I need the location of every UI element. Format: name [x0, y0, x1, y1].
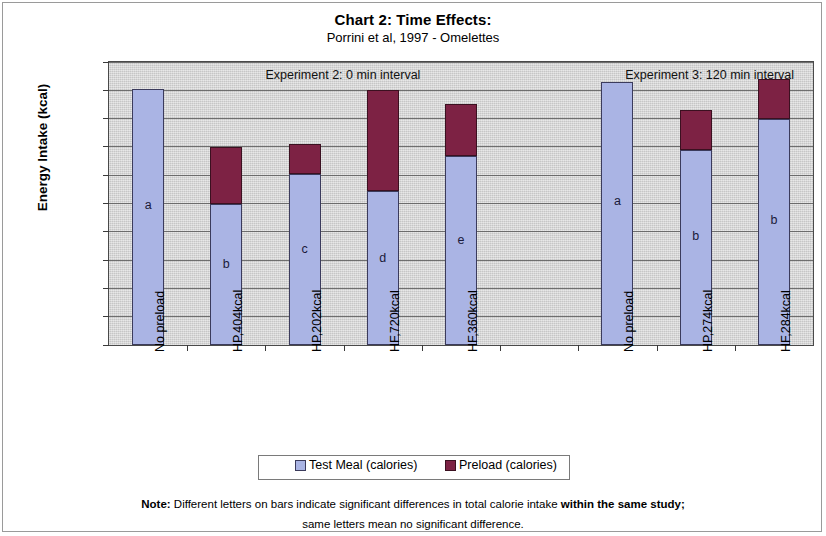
legend-swatch-preload-icon [445, 460, 456, 471]
y-axis-tick-mark [103, 203, 109, 204]
x-axis-category-label: No preload [622, 291, 636, 352]
footnote-line-2: same letters mean no significant differe… [0, 518, 826, 530]
y-axis-tick-mark [103, 118, 109, 119]
bar-significance-letter: a [601, 194, 633, 208]
experiment-annotation: Experiment 3: 120 min interval [625, 68, 794, 82]
bar-significance-letter: b [210, 257, 242, 271]
y-axis-tick-mark [103, 146, 109, 147]
x-axis-tick-mark [422, 345, 423, 351]
bar-significance-letter: a [132, 198, 164, 212]
x-axis-category-label: HF,720kcal [388, 290, 402, 352]
x-axis-category-label: HP,274kcal [701, 290, 715, 352]
legend-item-preload: Preload (calories) [445, 459, 557, 472]
footnote-note-lead: Note: [141, 498, 170, 510]
x-axis-tick-mark [500, 345, 501, 351]
bar-segment-preload [289, 144, 321, 174]
chart-legend: Test Meal (calories) Preload (calories) [258, 455, 570, 480]
legend-item-test-meal: Test Meal (calories) [295, 459, 417, 472]
x-axis-category-label: HP,202kcal [310, 290, 324, 352]
bar-segment-preload [210, 147, 242, 204]
chart-subtitle: Porrini et al, 1997 - Omelettes [0, 30, 826, 45]
y-axis-tick-mark [103, 345, 109, 346]
bar-significance-letter: d [367, 251, 399, 265]
bar-segment-preload [445, 104, 477, 156]
y-axis-tick-mark [103, 316, 109, 317]
footnote-line-1: Note: Different letters on bars indicate… [0, 498, 826, 510]
x-axis-tick-mark [657, 345, 658, 351]
x-axis-tick-mark [187, 345, 188, 351]
x-axis-category-label: HP,404kcal [231, 290, 245, 352]
y-axis-tick-mark [103, 288, 109, 289]
y-axis-tick-mark [103, 260, 109, 261]
x-axis-tick-mark [735, 345, 736, 351]
y-axis-tick-mark [103, 90, 109, 91]
bar-segment-preload [367, 90, 399, 192]
legend-label-preload: Preload (calories) [459, 459, 557, 472]
y-axis-tick-mark [103, 231, 109, 232]
bar-significance-letter: e [445, 233, 477, 247]
legend-swatch-test-meal-icon [295, 460, 306, 471]
experiment-annotation: Experiment 2: 0 min interval [265, 68, 420, 82]
y-axis-tick-mark [103, 175, 109, 176]
x-axis-category-label: HF,360kcal [466, 290, 480, 352]
y-axis-tick-mark [103, 62, 109, 63]
footnote-note-mid: Different letters on bars indicate signi… [171, 498, 561, 510]
footnote-note-tail: within the same study; [561, 498, 685, 510]
x-axis-category-label: No preload [153, 291, 167, 352]
x-axis-category-label: HF,284kcal [779, 290, 793, 352]
legend-label-test-meal: Test Meal (calories) [309, 459, 417, 472]
bar-segment-preload [680, 110, 712, 150]
chart-title: Chart 2: Time Effects: [0, 11, 826, 28]
bar-significance-letter: c [289, 242, 321, 256]
bar-significance-letter: b [680, 229, 712, 243]
x-axis-tick-mark [265, 345, 266, 351]
bar-segment-preload [758, 79, 790, 119]
y-axis-title: Energy Intake (kcal) [35, 28, 50, 268]
bar-significance-letter: b [758, 213, 790, 227]
x-axis-tick-mark [344, 345, 345, 351]
chart-screenshot: Chart 2: Time Effects: Porrini et al, 19… [0, 0, 826, 536]
x-axis-tick-mark [578, 345, 579, 351]
